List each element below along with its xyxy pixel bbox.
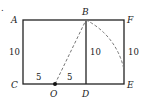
measure-od: 5 (67, 72, 72, 82)
label-e: E (126, 80, 134, 90)
point-o-dot (53, 82, 57, 86)
measure-bd: 10 (90, 47, 101, 57)
dashed-arc-be (86, 20, 124, 70)
label-d: D (81, 89, 89, 99)
label-f: F (126, 15, 134, 25)
problem-marker: . (1, 3, 4, 13)
measure-ac: 10 (9, 47, 20, 57)
measure-fe: 10 (128, 47, 139, 57)
label-c: C (11, 80, 18, 90)
golden-rectangle-diagram: . A B F C O D E 10 10 10 5 5 (0, 0, 147, 101)
label-o: O (50, 89, 58, 99)
label-a: A (10, 15, 18, 25)
label-b: B (81, 7, 89, 17)
measure-co: 5 (36, 72, 41, 82)
